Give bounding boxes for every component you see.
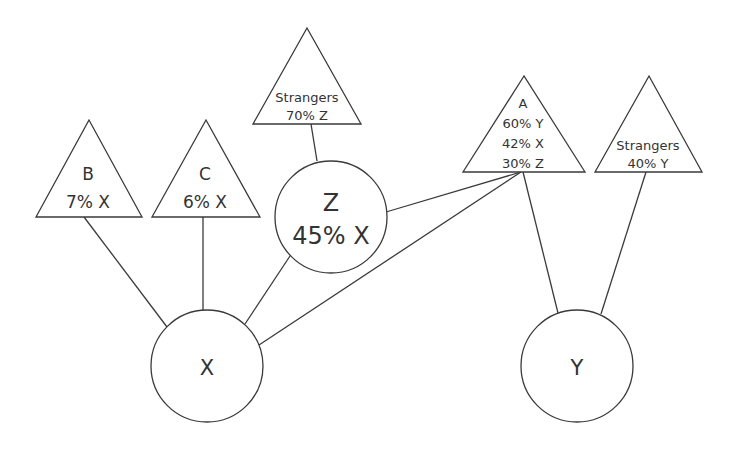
node-strangers-y: Strangers 40% Y xyxy=(595,76,702,172)
node-z-value: 45% X xyxy=(292,222,369,250)
node-a-line2: 42% X xyxy=(502,136,544,151)
edge-strangersz-z xyxy=(311,124,317,161)
node-c: C 6% X xyxy=(152,120,260,217)
node-x-title: X xyxy=(200,356,214,380)
node-strangers-z-value: 70% Z xyxy=(286,108,328,123)
node-a: A 60% Y 42% X 30% Z xyxy=(463,76,585,172)
node-c-value: 6% X xyxy=(183,192,227,212)
edge-z-a xyxy=(386,172,521,212)
node-y-title: Y xyxy=(570,356,584,380)
node-z-title: Z xyxy=(323,189,339,217)
node-a-line3: 30% Z xyxy=(502,156,544,171)
node-x: X xyxy=(151,310,263,422)
node-y: Y xyxy=(521,310,633,422)
node-a-line1: 60% Y xyxy=(503,116,544,131)
node-strangers-z: Strangers 70% Z xyxy=(253,28,361,124)
node-strangers-y-value: 40% Y xyxy=(628,156,669,171)
network-diagram: B 7% X C 6% X Strangers 70% Z A 60% Y 42… xyxy=(0,0,734,452)
edge-b-x xyxy=(84,217,167,327)
node-a-title: A xyxy=(519,96,528,111)
node-c-title: C xyxy=(199,164,211,184)
node-z: Z 45% X xyxy=(275,161,387,273)
node-b: B 7% X xyxy=(36,120,142,217)
edge-a-y xyxy=(523,172,558,313)
circle-z xyxy=(275,161,387,273)
node-b-value: 7% X xyxy=(66,192,110,212)
edge-strangersy-y xyxy=(601,172,646,314)
node-strangers-z-title: Strangers xyxy=(275,90,338,105)
node-b-title: B xyxy=(82,164,94,184)
node-strangers-y-title: Strangers xyxy=(616,138,679,153)
edge-z-x xyxy=(245,256,290,324)
